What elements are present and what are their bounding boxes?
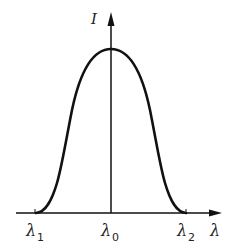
x-axis-label: λ: [209, 221, 220, 240]
y-axis-arrow-icon: [108, 12, 115, 26]
intensity-diagram: I λ 1 λ 0 λ 2 λ: [0, 0, 232, 251]
x-axis-arrow-icon: [209, 210, 222, 217]
svg-text:2: 2: [188, 231, 195, 244]
svg-text:0: 0: [112, 231, 119, 244]
y-axis-label: I: [90, 10, 98, 28]
label-lambda1: λ 1: [25, 221, 44, 244]
svg-text:λ: λ: [100, 221, 111, 240]
svg-text:1: 1: [37, 231, 44, 244]
svg-text:λ: λ: [176, 221, 187, 240]
svg-text:λ: λ: [25, 221, 36, 240]
label-lambda0: λ 0: [100, 221, 119, 244]
label-lambda2: λ 2: [176, 221, 195, 244]
